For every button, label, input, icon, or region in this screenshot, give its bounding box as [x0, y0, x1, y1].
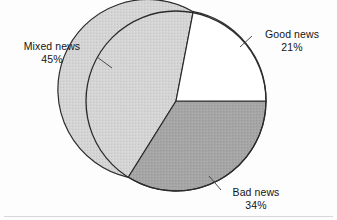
scan-artifact-line [4, 216, 333, 217]
pie-label-mixed-news-text: Mixed news [6, 40, 98, 53]
pie-label-bad-news-percent: 34% [218, 199, 294, 212]
pie-label-mixed-news-percent: 45% [6, 53, 98, 66]
pie-chart-figure: Mixed news 45% Good news 21% Bad news 34… [0, 0, 337, 220]
pie-label-mixed-news: Mixed news 45% [6, 40, 98, 65]
pie-label-bad-news-text: Bad news [218, 186, 294, 199]
pie-label-good-news-percent: 21% [252, 41, 332, 54]
pie-label-good-news: Good news 21% [252, 28, 332, 53]
pie-label-bad-news: Bad news 34% [218, 186, 294, 211]
pie-label-good-news-text: Good news [252, 28, 332, 41]
